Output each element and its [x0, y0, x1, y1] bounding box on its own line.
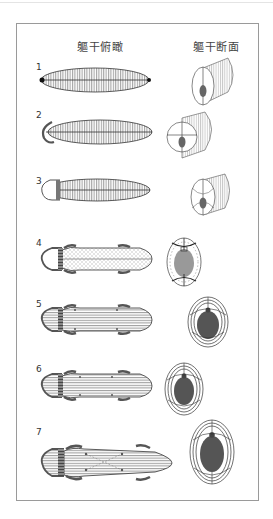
stage-1-cross-section [192, 58, 233, 105]
embryo-diagram [0, 0, 273, 519]
stage-2-cross-section [167, 112, 212, 158]
stage-7-top-view [42, 445, 172, 479]
stage-3-top-view [42, 179, 150, 201]
stage-7-cross-section [190, 420, 234, 484]
stage-6-cross-section [165, 363, 203, 415]
stage-4-top-view [42, 245, 152, 273]
stage-1-top-view [40, 68, 152, 92]
stage-2-top-view [43, 120, 152, 144]
stage-3-cross-section [191, 174, 230, 215]
stage-6-top-view [42, 371, 152, 400]
stage-4-cross-section [167, 238, 201, 286]
stage-5-cross-section [188, 297, 228, 347]
stage-5-top-view [42, 305, 152, 334]
